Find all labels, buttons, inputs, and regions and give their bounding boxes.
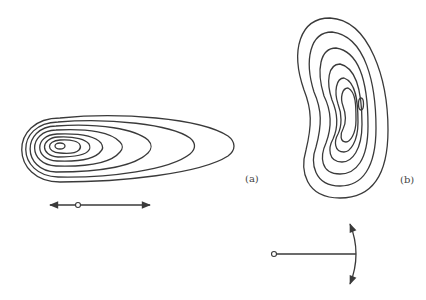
contour-plot-b (298, 18, 388, 198)
panel-label-b: (b) (400, 174, 414, 185)
origin-point-icon (76, 203, 81, 208)
panel-label-a: (a) (245, 173, 259, 184)
rotation-arrow (272, 224, 357, 284)
contour-plot-a (22, 116, 234, 182)
translation-arrow (50, 203, 150, 208)
diagram-canvas (0, 0, 426, 300)
pivot-point-icon (272, 252, 277, 257)
